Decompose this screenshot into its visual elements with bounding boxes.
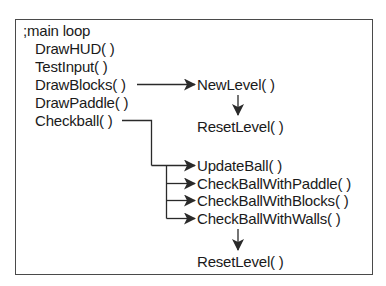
connector-lines [0, 0, 386, 286]
line-checkball-elbow [122, 121, 152, 166]
